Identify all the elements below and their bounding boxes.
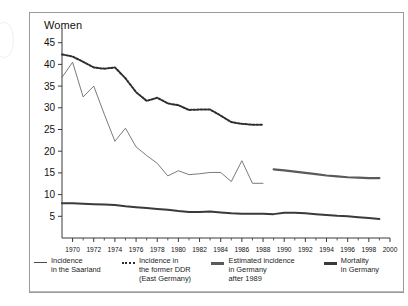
svg-text:40: 40 bbox=[44, 59, 56, 70]
thin-solid-line-icon bbox=[34, 258, 47, 268]
series-thick-gray bbox=[274, 169, 380, 178]
chart-screenshot: Women 5101520253035404519701972197419761… bbox=[0, 0, 408, 306]
thick-gray-line-icon bbox=[211, 258, 224, 268]
dotted-line-icon bbox=[122, 258, 135, 268]
legend-divider bbox=[30, 291, 403, 292]
thick-dark-line-icon bbox=[324, 258, 337, 268]
svg-text:1994: 1994 bbox=[319, 246, 334, 253]
legend-label: Incidence in the former DDR (East German… bbox=[139, 256, 191, 284]
svg-text:20: 20 bbox=[44, 146, 56, 157]
svg-text:1972: 1972 bbox=[86, 246, 101, 253]
svg-text:1990: 1990 bbox=[277, 246, 292, 253]
chart-legend: Incidence in the Saarland Incidence in t… bbox=[30, 256, 402, 292]
svg-text:25: 25 bbox=[44, 124, 56, 135]
svg-text:1976: 1976 bbox=[129, 246, 144, 253]
svg-text:15: 15 bbox=[44, 167, 56, 178]
legend-item-incidence-ddr: Incidence in the former DDR (East German… bbox=[122, 256, 212, 284]
series-thick-dark bbox=[62, 203, 379, 219]
svg-text:45: 45 bbox=[44, 37, 56, 48]
legend-label: Incidence in the Saarland bbox=[51, 256, 101, 274]
legend-item-mortality-germany: Mortality in Germany bbox=[324, 256, 402, 274]
svg-text:1980: 1980 bbox=[171, 246, 186, 253]
series-dotted bbox=[62, 54, 263, 124]
svg-text:1984: 1984 bbox=[213, 246, 228, 253]
svg-text:1978: 1978 bbox=[150, 246, 165, 253]
svg-text:1986: 1986 bbox=[235, 246, 250, 253]
svg-text:1988: 1988 bbox=[256, 246, 271, 253]
legend-label: Estimated incidence in Germany after 198… bbox=[228, 256, 294, 284]
svg-text:35: 35 bbox=[44, 81, 56, 92]
svg-text:2000: 2000 bbox=[383, 246, 398, 253]
legend-item-estimated-incidence-germany: Estimated incidence in Germany after 198… bbox=[211, 256, 323, 284]
svg-text:1974: 1974 bbox=[108, 246, 123, 253]
svg-text:5: 5 bbox=[49, 211, 55, 222]
svg-text:1970: 1970 bbox=[65, 246, 80, 253]
legend-item-incidence-saarland: Incidence in the Saarland bbox=[34, 256, 122, 274]
svg-text:10: 10 bbox=[44, 189, 56, 200]
svg-text:1998: 1998 bbox=[362, 246, 377, 253]
svg-text:1982: 1982 bbox=[192, 246, 207, 253]
svg-text:30: 30 bbox=[44, 102, 56, 113]
legend-label: Mortality in Germany bbox=[341, 256, 379, 274]
svg-text:1996: 1996 bbox=[340, 246, 355, 253]
svg-text:1992: 1992 bbox=[298, 246, 313, 253]
